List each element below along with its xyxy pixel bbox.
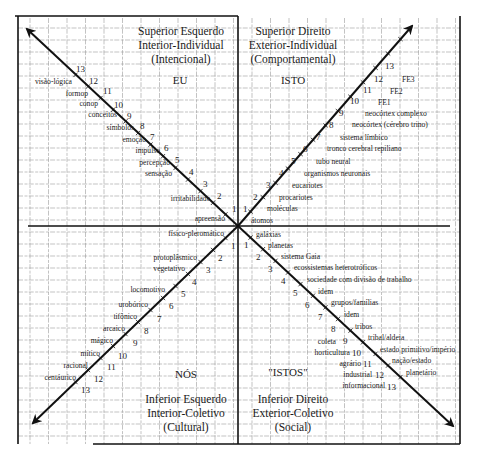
svg-text:planetário: planetário (406, 368, 437, 377)
svg-text:3: 3 (206, 265, 211, 275)
svg-text:4: 4 (281, 276, 286, 286)
svg-text:10: 10 (118, 351, 128, 361)
svg-text:6: 6 (305, 300, 310, 310)
svg-text:10: 10 (352, 348, 362, 358)
svg-text:5: 5 (181, 289, 186, 299)
svg-text:FE1: FE1 (378, 98, 391, 107)
svg-text:átomos: átomos (251, 216, 273, 225)
svg-text:1: 1 (244, 240, 249, 250)
svg-text:Inferior Esquerdo: Inferior Esquerdo (145, 393, 227, 406)
svg-text:Interior-Coletivo: Interior-Coletivo (147, 407, 225, 419)
svg-text:2: 2 (217, 191, 222, 201)
svg-text:tifônico: tifônico (113, 312, 137, 321)
lower-left-labels: 1 2 3 4 5 6 7 8 9 10 11 12 13 físico-ple… (44, 229, 235, 395)
svg-text:urobórico: urobórico (118, 300, 148, 309)
svg-text:4: 4 (279, 168, 284, 178)
svg-text:locomotivo: locomotivo (130, 285, 165, 294)
svg-text:(Comportamental): (Comportamental) (251, 53, 336, 66)
svg-text:arcaico: arcaico (103, 324, 125, 333)
svg-text:12: 12 (94, 374, 103, 384)
svg-text:formop: formop (66, 89, 89, 98)
svg-text:9: 9 (339, 108, 344, 118)
svg-text:(Cultural): (Cultural) (163, 421, 209, 434)
svg-text:7: 7 (150, 132, 155, 142)
svg-text:9: 9 (343, 336, 348, 346)
svg-text:13: 13 (81, 385, 91, 395)
svg-text:6: 6 (303, 144, 308, 154)
pronoun-isto: ISTO (281, 74, 305, 86)
svg-text:4: 4 (192, 277, 197, 287)
svg-text:Superior Direito: Superior Direito (255, 25, 330, 38)
svg-text:(Intencional): (Intencional) (151, 53, 211, 66)
svg-text:coleta: coleta (318, 337, 337, 346)
svg-text:Exterior-Individual: Exterior-Individual (249, 39, 338, 51)
svg-text:Superior Esquerdo: Superior Esquerdo (138, 25, 224, 38)
svg-text:eucariotes: eucariotes (292, 181, 323, 190)
svg-text:conceitos: conceitos (88, 110, 117, 119)
svg-text:13: 13 (76, 64, 86, 74)
svg-text:irritabilidade: irritabilidade (171, 194, 211, 203)
svg-text:2: 2 (256, 252, 261, 262)
svg-text:neocórtex (cérebro trino): neocórtex (cérebro trino) (352, 120, 428, 129)
svg-text:símbolos: símbolos (107, 123, 134, 132)
svg-text:procariotes: procariotes (279, 193, 313, 202)
svg-text:nação/estado: nação/estado (392, 356, 431, 365)
svg-text:físico-pleromático: físico-pleromático (168, 229, 224, 238)
svg-text:11: 11 (363, 359, 372, 369)
svg-text:FE2: FE2 (390, 87, 403, 96)
svg-text:tubo neural: tubo neural (316, 157, 350, 166)
upper-right-labels: 1 2 3 4 5 6 7 8 9 10 11 12 13 átomos mol… (243, 61, 428, 225)
svg-text:ecossistemas heterotróficos: ecossistemas heterotróficos (294, 263, 377, 272)
svg-text:sistema límbico: sistema límbico (340, 133, 388, 142)
svg-text:industrial: industrial (343, 370, 372, 379)
upper-left-title: Superior Esquerdo Interior-Individual (I… (138, 25, 224, 86)
svg-text:10: 10 (350, 96, 360, 106)
svg-text:mítico: mítico (81, 349, 101, 358)
svg-text:1: 1 (243, 204, 248, 214)
svg-text:9: 9 (127, 111, 132, 121)
svg-text:9: 9 (133, 338, 138, 348)
svg-text:11: 11 (363, 85, 372, 95)
svg-text:5: 5 (175, 155, 180, 165)
svg-text:organismos neuronais: organismos neuronais (304, 169, 370, 178)
svg-text:12: 12 (89, 76, 98, 86)
svg-text:protoplâsmico: protoplâsmico (154, 253, 198, 262)
svg-text:sociedade com divisão de traba: sociedade com divisão de trabalho (307, 275, 412, 284)
svg-text:1: 1 (231, 241, 236, 251)
svg-text:sistema Gaia: sistema Gaia (281, 252, 321, 261)
pronoun-nos: NÓS (175, 368, 197, 380)
svg-text:(Social): (Social) (275, 421, 312, 434)
svg-text:racional: racional (64, 361, 88, 370)
svg-text:6: 6 (169, 301, 174, 311)
four-quadrant-diagram: Superior Esquerdo Interior-Individual (I… (0, 0, 477, 454)
svg-text:planetas: planetas (268, 241, 293, 250)
svg-text:3: 3 (268, 264, 273, 274)
svg-text:4: 4 (189, 167, 194, 177)
svg-text:galáxias: galáxias (256, 230, 281, 239)
svg-text:13: 13 (385, 61, 395, 71)
svg-text:6: 6 (164, 143, 169, 153)
svg-text:informacional: informacional (342, 381, 385, 390)
svg-text:7: 7 (316, 132, 321, 142)
svg-text:FE3: FE3 (402, 75, 415, 84)
svg-text:10: 10 (114, 100, 124, 110)
svg-text:8: 8 (140, 121, 145, 131)
svg-text:centáurico: centáurico (44, 373, 76, 382)
svg-text:1: 1 (232, 204, 237, 214)
svg-text:Exterior-Coletivo: Exterior-Coletivo (253, 407, 334, 419)
pronoun-istos: "ISTOS" (268, 366, 307, 378)
svg-text:5: 5 (291, 156, 296, 166)
svg-text:conop: conop (79, 99, 98, 108)
svg-text:percepção: percepção (139, 158, 170, 167)
svg-text:visão-lógica: visão-lógica (35, 77, 73, 86)
svg-text:horticultura: horticultura (315, 348, 351, 357)
svg-text:impulso: impulso (136, 146, 161, 155)
svg-text:idem: idem (344, 310, 359, 319)
svg-text:agrário: agrário (339, 359, 361, 368)
svg-text:sensação: sensação (145, 169, 172, 178)
svg-text:estado primitivo/império: estado primitivo/império (380, 345, 455, 354)
svg-text:2: 2 (218, 253, 223, 263)
svg-text:12: 12 (375, 370, 384, 380)
svg-text:8: 8 (144, 326, 149, 336)
svg-text:neocórtex complexo: neocórtex complexo (365, 109, 427, 118)
